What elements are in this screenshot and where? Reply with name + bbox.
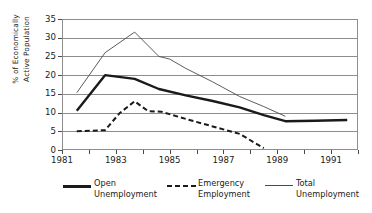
x-tick-label: 1981 bbox=[42, 155, 82, 165]
legend-label: Open Unemployment bbox=[92, 178, 157, 199]
x-tick-mark bbox=[304, 150, 305, 154]
data-series-layer bbox=[62, 19, 358, 150]
legend-item[interactable]: Open Unemployment bbox=[62, 178, 157, 199]
legend-label: Total Unemployment bbox=[294, 178, 359, 199]
chart-legend: Open UnemploymentEmergency EmploymentTot… bbox=[0, 178, 372, 210]
x-tick-label: 1985 bbox=[150, 155, 190, 165]
legend-swatch-icon bbox=[264, 179, 294, 193]
x-tick-mark bbox=[358, 150, 359, 154]
chart-figure: % of Economically Active Population 0510… bbox=[0, 0, 372, 213]
series-line bbox=[77, 32, 286, 116]
x-tick-mark bbox=[62, 150, 63, 154]
legend-item[interactable]: Emergency Employment bbox=[166, 178, 250, 199]
legend-swatch-icon bbox=[166, 179, 196, 193]
x-tick-label: 1987 bbox=[203, 155, 243, 165]
x-tick-mark bbox=[331, 150, 332, 154]
legend-label: Emergency Employment bbox=[196, 178, 250, 199]
x-tick-mark bbox=[223, 150, 224, 154]
legend-swatch-icon bbox=[62, 179, 92, 193]
x-tick-mark bbox=[197, 150, 198, 154]
x-tick-label: 1989 bbox=[257, 155, 297, 165]
x-tick-mark bbox=[116, 150, 117, 154]
x-tick-label: 1983 bbox=[96, 155, 136, 165]
x-tick-mark bbox=[89, 150, 90, 154]
x-tick-mark bbox=[277, 150, 278, 154]
legend-item[interactable]: Total Unemployment bbox=[264, 178, 359, 199]
series-line bbox=[77, 101, 264, 148]
x-tick-mark bbox=[143, 150, 144, 154]
x-tick-mark bbox=[250, 150, 251, 154]
x-tick-mark bbox=[170, 150, 171, 154]
x-tick-label: 1991 bbox=[311, 155, 351, 165]
